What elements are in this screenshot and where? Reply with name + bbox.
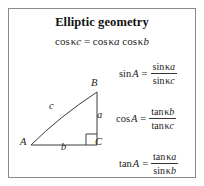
- formula-tangent-denominator-variable: b: [171, 165, 176, 176]
- formula-tangent-lhs-angle: A: [133, 158, 139, 169]
- formula-sine-fraction-bar: [151, 73, 178, 74]
- formula-tangent-rule: tan A = tan κa sin κb: [119, 151, 178, 176]
- formula-tangent-denominator: sin κb: [151, 165, 178, 176]
- main-equation-rhs2-function: cos: [122, 35, 137, 47]
- formula-cosine-lhs-angle: A: [131, 113, 137, 124]
- vertex-label-b: B: [91, 77, 97, 88]
- main-equation-rhs2-variable: b: [143, 35, 149, 47]
- formula-cosine-rule: cos A = tan κb tan κc: [116, 106, 176, 131]
- elliptic-geometry-figure: Elliptic geometry cos κc = cos κa cos κb…: [0, 0, 204, 186]
- formula-tangent-lhs: tan A: [119, 158, 142, 169]
- main-equation: cos κc = cos κa cos κb: [9, 35, 195, 47]
- formula-tangent-fraction: tan κa sin κb: [151, 151, 178, 176]
- formula-sine-equals: =: [142, 68, 151, 79]
- side-label-b: b: [61, 141, 66, 152]
- main-equation-lhs-function: cos: [55, 35, 70, 47]
- formula-cosine-numerator-function: tan: [151, 106, 163, 117]
- formula-cosine-lhs-function: cos: [116, 113, 130, 124]
- main-equation-equals: =: [84, 35, 90, 47]
- formula-tangent-fraction-bar: [151, 163, 178, 164]
- formula-tangent-denominator-function: sin: [153, 165, 165, 176]
- formula-tangent-equals: =: [142, 158, 151, 169]
- main-equation-lhs-variable: c: [76, 35, 81, 47]
- formula-cosine-denominator-variable: c: [170, 120, 174, 131]
- formula-tangent-numerator-variable: a: [171, 151, 176, 162]
- formula-tangent-numerator: tan κa: [151, 151, 178, 162]
- formula-sine-denominator: sin κc: [151, 75, 177, 86]
- formula-sine-denominator-variable: c: [170, 75, 174, 86]
- figure-title: Elliptic geometry: [9, 15, 195, 30]
- formula-sine-numerator-function: sin: [153, 61, 165, 72]
- formula-cosine-numerator: tan κb: [149, 106, 176, 117]
- formula-cosine-lhs: cos A: [116, 113, 140, 124]
- formula-sine-denominator-function: sin: [153, 75, 165, 86]
- triangle-side-c-arc: [31, 92, 97, 145]
- formula-sine-lhs-angle: A: [132, 68, 138, 79]
- formula-tangent-lhs-function: tan: [119, 158, 132, 169]
- triangle-svg: [19, 73, 111, 173]
- formula-cosine-numerator-variable: b: [169, 106, 174, 117]
- formula-cosine-equals: =: [140, 113, 149, 124]
- right-triangle-diagram: A B C a b c: [19, 73, 111, 173]
- main-equation-rhs1-variable: a: [114, 35, 120, 47]
- formula-sine-numerator-variable: a: [170, 61, 175, 72]
- formula-cosine-denominator-function: tan: [152, 120, 164, 131]
- formula-sine-numerator: sin κa: [151, 61, 178, 72]
- formula-sine-rule: sin A = sin κa sin κc: [119, 61, 177, 86]
- formula-sine-lhs: sin A: [119, 68, 142, 79]
- vertex-label-a: A: [20, 136, 26, 147]
- formula-cosine-denominator: tan κc: [150, 120, 177, 131]
- formula-cosine-fraction-bar: [149, 118, 176, 119]
- formula-sine-lhs-function: sin: [119, 68, 131, 79]
- formula-stack: sin A = sin κa sin κc cos A = tan κb tan…: [113, 54, 204, 186]
- formula-cosine-fraction: tan κb tan κc: [149, 106, 176, 131]
- side-label-a: a: [97, 109, 102, 120]
- main-equation-rhs1-function: cos: [93, 35, 108, 47]
- formula-sine-fraction: sin κa sin κc: [151, 61, 178, 86]
- side-label-c: c: [49, 100, 54, 111]
- figure-frame: Elliptic geometry cos κc = cos κa cos κb…: [8, 8, 196, 178]
- vertex-label-c: C: [95, 136, 102, 147]
- formula-tangent-numerator-function: tan: [153, 151, 165, 162]
